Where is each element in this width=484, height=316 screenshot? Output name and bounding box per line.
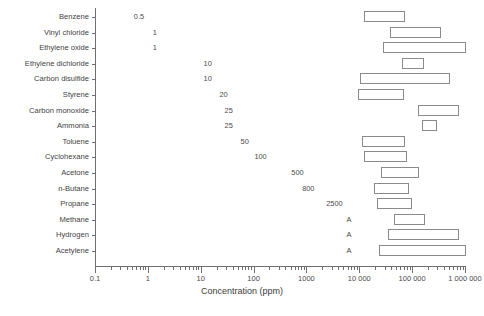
figure-container: Benzene0.5Vinyl chloride1Ethylene oxide1… [0,0,484,316]
x-axis-tick-label: 100 000 [399,274,426,283]
range-bar [358,89,404,100]
chart-row: Ethylene dichloride10 [96,57,466,71]
category-label: Vinyl chloride [44,26,89,40]
x-axis-minor-tick [238,267,239,270]
y-axis-tick [92,33,96,34]
x-axis-minor-tick [301,267,302,270]
x-axis-minor-tick [285,267,286,270]
x-axis-minor-tick [140,267,141,270]
threshold-value-label: A [346,228,351,242]
category-label: Ethylene dichloride [25,57,89,71]
category-label: Acetylene [56,244,89,258]
category-label: Toluene [62,135,89,149]
y-axis-tick [92,126,96,127]
x-axis-minor-tick [338,267,339,270]
threshold-value-label: 2500 [326,197,342,211]
x-axis-minor-tick [245,267,246,270]
threshold-value-label: 20 [220,88,228,102]
chart-row: Acetone500 [96,166,466,180]
threshold-value-label: 500 [291,166,303,180]
range-bar [402,58,424,69]
y-axis-tick [92,95,96,96]
range-bar [360,73,450,84]
x-axis-minor-tick [193,267,194,270]
chart-row: Cyclohexane100 [96,150,466,164]
chart-row: n-Butane800 [96,182,466,196]
range-bar [362,136,405,147]
x-axis-minor-tick [217,267,218,270]
x-axis-minor-tick [449,267,450,270]
x-axis-minor-tick [198,267,199,270]
y-axis-tick [92,17,96,18]
x-axis-minor-tick [242,267,243,270]
x-axis-tick-label: 1000 [298,274,315,283]
x-axis-minor-tick [351,267,352,270]
x-axis-minor-tick [173,267,174,270]
x-axis-minor-tick [189,267,190,270]
range-bar [374,183,409,194]
category-label: Methane [59,213,89,227]
category-label: Carbon disulfide [34,72,89,86]
threshold-value-label: 0.5 [134,10,144,24]
plot-area: Benzene0.5Vinyl chloride1Ethylene oxide1… [96,8,466,266]
range-bar [394,214,424,225]
x-axis-minor-tick [460,267,461,270]
threshold-value-label: A [346,244,351,258]
threshold-value-label: 100 [254,150,266,164]
x-axis-minor-tick [291,267,292,270]
range-bar [379,245,466,256]
chart-row: Benzene0.5 [96,10,466,24]
x-axis-minor-tick [404,267,405,270]
x-axis-tick-label: 1 000 000 [448,274,481,283]
x-axis-minor-tick [164,267,165,270]
x-axis-minor-tick [132,267,133,270]
category-label: Ammonia [57,119,89,133]
x-axis-minor-tick [136,267,137,270]
x-axis-minor-tick [354,267,355,270]
threshold-value-label: 25 [225,104,233,118]
x-axis-minor-tick [463,267,464,270]
y-axis-tick [92,157,96,158]
y-axis-tick [92,189,96,190]
category-label: Ethylene oxide [39,41,89,55]
x-axis-minor-tick [357,267,358,270]
range-bar [383,42,466,53]
x-axis-tick-label: 100 [247,274,260,283]
x-axis-tick-label: 1 [146,274,150,283]
x-axis-minor-tick [391,267,392,270]
x-axis-minor-tick [143,267,144,270]
category-label: Benzene [59,10,89,24]
x-axis-minor-tick [385,267,386,270]
category-label: Carbon monoxide [29,104,89,118]
x-axis-minor-tick [453,267,454,270]
x-axis-minor-tick [410,267,411,270]
x-axis-minor-tick [226,267,227,270]
y-axis-tick [92,220,96,221]
category-label: n-Butane [58,182,89,196]
range-bar [364,11,405,22]
threshold-value-label: 1 [153,41,157,55]
threshold-value-label: 800 [302,182,314,196]
x-axis-major-tick [465,267,466,273]
x-axis-minor-tick [127,267,128,270]
x-axis-minor-tick [120,267,121,270]
chart-row: Ethylene oxide1 [96,41,466,55]
range-bar [390,27,441,38]
x-axis-minor-tick [437,267,438,270]
chart-row: HydrogenA [96,228,466,242]
x-axis-minor-tick [279,267,280,270]
x-axis-minor-tick [322,267,323,270]
x-axis-minor-tick [295,267,296,270]
x-axis-major-tick [95,267,96,273]
x-axis-minor-tick [396,267,397,270]
x-axis-major-tick [201,267,202,273]
category-label: Styrene [63,88,89,102]
chart-row: AcetyleneA [96,244,466,258]
threshold-value-label: 50 [241,135,249,149]
range-bar [422,120,436,131]
x-axis-major-tick [306,267,307,273]
y-axis-tick [92,251,96,252]
y-axis-tick [92,204,96,205]
y-axis-tick [92,64,96,65]
x-axis-major-tick [412,267,413,273]
